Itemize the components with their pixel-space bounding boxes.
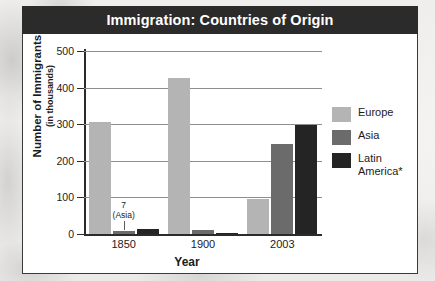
bar-asia-2003 [271, 144, 293, 234]
legend-label-latin-america-line1: Latin [358, 152, 382, 164]
gridline-500 [84, 51, 322, 52]
y-axis-line [84, 49, 86, 236]
y-axis-tick-100 [77, 197, 84, 198]
y-axis-title-main: Number of Immigrants [31, 35, 43, 158]
gridline-300 [84, 124, 322, 125]
y-axis-tick-label-0: 0 [68, 228, 74, 240]
x-axis-title: Year [62, 255, 312, 269]
legend-item-latin-america: Latin America* [332, 152, 418, 177]
y-axis-tick-500 [77, 51, 84, 52]
y-axis-tick-300 [77, 124, 84, 125]
chart-legend: Europe Asia Latin America* [332, 106, 418, 184]
bar-latin-america--2003 [295, 125, 317, 234]
bar-asia-1850 [113, 231, 135, 234]
y-axis-tick-200 [77, 161, 84, 162]
plot-area: 0100200300400500 185019002003 7 (Asia) [84, 51, 322, 234]
y-axis-tick-400 [77, 88, 84, 89]
bar-latin-america--1900 [216, 233, 238, 235]
legend-item-europe: Europe [332, 106, 418, 122]
bar-latin-america--1850 [137, 229, 159, 234]
chart-title-banner: Immigration: Countries of Origin [22, 6, 418, 34]
x-axis-label-1850: 1850 [111, 238, 135, 250]
y-axis-title-units: (in thousands) [44, 21, 55, 171]
bar-europe-2003 [247, 199, 269, 234]
y-axis-title: Number of Immigrants (in thousands) [31, 21, 55, 171]
legend-label-latin-america-line2: America* [358, 165, 403, 177]
bar-asia-1900 [192, 230, 214, 234]
y-axis-tick-label-400: 400 [56, 82, 74, 94]
gridline-0 [84, 234, 322, 236]
y-axis-tick-label-100: 100 [56, 191, 74, 203]
gridline-400 [84, 88, 322, 89]
legend-label-asia: Asia [358, 129, 379, 142]
x-axis-label-2003: 2003 [270, 238, 294, 250]
annotation-label: (Asia) [102, 211, 146, 220]
annotation-leader-line [124, 221, 125, 230]
legend-swatch-europe [332, 107, 351, 122]
bar-europe-1900 [168, 78, 190, 234]
legend-swatch-latin-america [332, 153, 351, 168]
chart-title: Immigration: Countries of Origin [106, 13, 333, 28]
x-axis-label-1900: 1900 [191, 238, 215, 250]
annotation-asia-1850: 7 (Asia) [102, 201, 146, 220]
y-axis-tick-label-500: 500 [56, 45, 74, 57]
legend-item-asia: Asia [332, 129, 418, 145]
legend-label-europe: Europe [358, 106, 393, 119]
y-axis-tick-0 [77, 234, 84, 235]
legend-swatch-asia [332, 130, 351, 145]
chart-figure: Immigration: Countries of Origin Number … [22, 6, 418, 274]
legend-label-latin-america: Latin America* [358, 152, 403, 177]
y-axis-tick-label-300: 300 [56, 118, 74, 130]
y-axis-tick-label-200: 200 [56, 155, 74, 167]
